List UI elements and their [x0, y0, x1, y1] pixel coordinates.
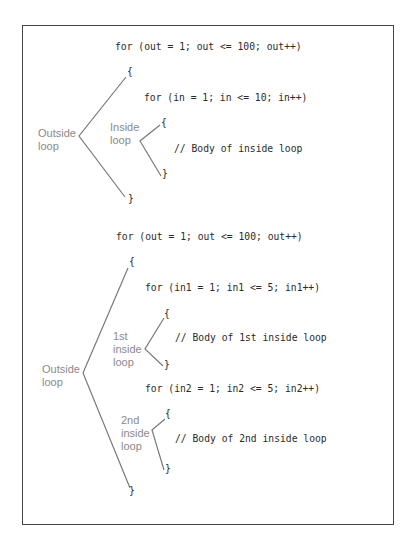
second-inside-loop-bracket	[152, 419, 165, 470]
label-line: Outside	[38, 127, 76, 139]
inner-open-brace: {	[161, 117, 167, 129]
label-line: 1st	[113, 330, 128, 342]
label-line: 2nd	[121, 414, 139, 426]
outer-open-brace-1: {	[127, 66, 133, 78]
first-inner-for-statement: for (in1 = 1; in1 <= 5; in1++)	[145, 282, 320, 294]
first-inside-loop-bracket	[145, 318, 164, 366]
label-line: loop	[42, 376, 63, 388]
outer-loop-bracket-2	[83, 268, 130, 488]
first-inside-loop-label: 1stinsideloop	[113, 330, 142, 369]
outer-for-statement-2: for (out = 1; out <= 100; out++)	[116, 231, 303, 243]
inner-for-statement: for (in = 1; in <= 10; in++)	[144, 92, 307, 104]
inside-loop-bracket	[140, 125, 161, 176]
label-line: loop	[113, 356, 134, 368]
second-inner-close-brace: }	[165, 463, 171, 475]
outer-close-brace-2: }	[129, 485, 135, 497]
first-inner-open-brace: {	[164, 308, 170, 320]
second-inner-for-statement: for (in2 = 1; in2 <= 5; in2++)	[145, 383, 320, 395]
outside-loop-label-1: Outsideloop	[38, 127, 76, 153]
label-line: loop	[121, 440, 142, 452]
outer-open-brace-2: {	[129, 256, 135, 268]
first-inner-close-brace: }	[164, 359, 170, 371]
outside-loop-label-2: Outsideloop	[42, 363, 80, 389]
inner-close-brace: }	[162, 168, 168, 180]
label-line: inside	[113, 343, 142, 355]
inner-body-comment: // Body of inside loop	[174, 143, 302, 155]
label-line: loop	[110, 134, 131, 146]
second-inner-body-comment: // Body of 2nd inside loop	[175, 433, 327, 445]
first-inner-body-comment: // Body of 1st inside loop	[175, 332, 327, 344]
label-line: loop	[38, 140, 59, 152]
bracket-lines	[0, 0, 412, 547]
label-line: Outside	[42, 363, 80, 375]
outer-close-brace-1: }	[128, 193, 134, 205]
second-inside-loop-label: 2ndinsideloop	[121, 414, 150, 453]
label-line: Inside	[110, 121, 139, 133]
label-line: inside	[121, 427, 150, 439]
outer-for-statement-1: for (out = 1; out <= 100; out++)	[115, 41, 302, 53]
second-inner-open-brace: {	[165, 408, 171, 420]
inside-loop-label: Insideloop	[110, 121, 139, 147]
